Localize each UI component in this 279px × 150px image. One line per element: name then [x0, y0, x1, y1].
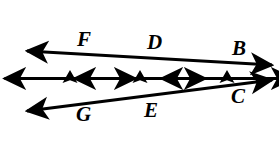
point-label-F: F [77, 29, 91, 50]
point-label-G: G [76, 104, 91, 125]
parallel-tick-icon-right [220, 70, 235, 83]
parallel-tick-icon-left [63, 70, 78, 83]
point-label-D: D [147, 32, 162, 53]
geometry-canvas [0, 0, 279, 150]
point-label-E: E [144, 100, 158, 121]
parallel-tick-icon-middle [133, 70, 148, 83]
parallel-tick-marks-group [63, 70, 235, 83]
point-label-B: B [232, 38, 246, 59]
point-label-C: C [231, 86, 245, 107]
geometry-figure: F D B G E C [0, 0, 279, 150]
